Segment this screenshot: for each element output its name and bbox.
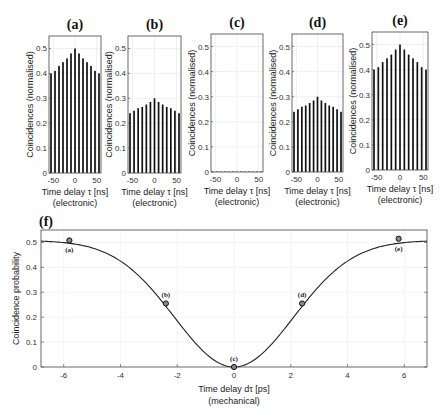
y-tick-label: 0.2 — [279, 118, 291, 127]
x-tick-label: 0 — [73, 176, 78, 185]
y-tick-label: 0.4 — [115, 69, 127, 78]
bar — [90, 66, 92, 173]
y-tick-label: 0.5 — [115, 44, 127, 53]
x-axis-sublabel: (electronic) — [378, 195, 423, 205]
bar — [54, 71, 56, 173]
x-axis-sublabel: (electronic) — [295, 197, 340, 207]
bar — [297, 109, 299, 172]
x-axis-sublabel: (mechanical) — [208, 396, 260, 406]
bar — [336, 109, 338, 172]
bar — [332, 107, 334, 172]
bar — [425, 70, 427, 170]
y-tick-label: 0.1 — [36, 144, 48, 153]
x-tick-label: 6 — [402, 371, 407, 380]
x-tick-label: -4 — [117, 371, 125, 380]
bar — [313, 100, 315, 172]
x-axis-label: Time delay τ [ns] — [367, 184, 434, 194]
x-tick-label: 0 — [232, 371, 237, 380]
panel-b: 00.10.20.30.40.5-50050(b)Time delay τ [n… — [104, 17, 188, 208]
bar — [317, 97, 319, 172]
x-tick-label: -2 — [174, 371, 182, 380]
bar — [340, 112, 342, 172]
y-tick-label: 0.3 — [36, 94, 48, 103]
y-axis-label: Coincidence probability — [11, 251, 21, 345]
y-tick-label: 0.3 — [198, 93, 210, 102]
bar — [94, 71, 96, 173]
y-tick-label: 0 — [33, 363, 38, 372]
x-axis-label: Time delay τ [ns] — [204, 186, 271, 196]
bar — [137, 108, 139, 173]
bar — [178, 113, 180, 173]
bar — [309, 103, 311, 172]
marker-point — [67, 238, 72, 243]
bar — [158, 102, 160, 173]
x-axis-label: Time delay dτ [ps] — [198, 384, 270, 394]
y-tick-label: 0.3 — [26, 288, 38, 297]
y-tick-label: 0.5 — [279, 43, 291, 52]
x-tick-label: -50 — [210, 175, 222, 184]
bar — [174, 111, 176, 173]
marker-label: (b) — [162, 291, 171, 299]
y-tick-label: 0.5 — [359, 41, 371, 50]
bar — [62, 62, 64, 173]
x-tick-label: 0 — [152, 176, 157, 185]
y-tick-label: 0.4 — [198, 68, 210, 77]
bar — [78, 53, 80, 173]
bar — [162, 105, 164, 174]
marker-point — [396, 236, 401, 241]
bar — [390, 55, 392, 170]
x-axis-label: Time delay τ [ns] — [284, 186, 351, 196]
bar — [416, 62, 418, 170]
y-axis-label: Coincidences (normalised) — [25, 51, 35, 158]
bar — [421, 67, 423, 170]
bar — [70, 53, 72, 173]
y-tick-label: 0.2 — [359, 116, 371, 125]
y-tick-label: 0.4 — [36, 69, 48, 78]
x-tick-label: -50 — [127, 176, 139, 185]
marker-label: (d) — [298, 291, 307, 299]
bar — [377, 67, 379, 170]
panel-d: 00.10.20.30.40.5-50050(d)Time delay τ [n… — [268, 15, 351, 207]
y-tick-label: 0.2 — [26, 313, 38, 322]
x-tick-label: 50 — [172, 176, 181, 185]
y-axis-label: Coincidences (normalised) — [187, 50, 197, 157]
y-tick-label: 0.2 — [115, 119, 127, 128]
bar — [408, 55, 410, 170]
y-tick-label: 0.4 — [279, 68, 291, 77]
bar — [82, 58, 84, 173]
y-tick-label: 0.3 — [115, 94, 127, 103]
x-axis-sublabel: (electronic) — [132, 198, 177, 208]
bar — [305, 106, 307, 172]
bar — [321, 100, 323, 172]
panel-f: 00.10.20.30.40.5-6-4-20246(a)(b)(c)(d)(e… — [11, 214, 427, 406]
y-axis-label: Coincidences (normalised) — [268, 50, 278, 157]
bar — [324, 103, 326, 172]
bar — [412, 58, 414, 170]
bar — [386, 58, 388, 170]
x-tick-label: 0 — [235, 175, 240, 184]
y-tick-label: 0.4 — [26, 263, 38, 272]
x-tick-label: -6 — [60, 371, 68, 380]
panel-tag: (d) — [309, 15, 326, 31]
bar — [328, 106, 330, 172]
x-tick-label: 0 — [315, 175, 320, 184]
y-tick-label: 0.5 — [36, 44, 48, 53]
bar — [382, 62, 384, 170]
bar — [154, 98, 156, 173]
x-tick-label: 2 — [289, 371, 294, 380]
x-axis-label: Time delay τ [ns] — [121, 187, 188, 197]
x-tick-label: -50 — [290, 175, 302, 184]
x-tick-label: 0 — [398, 173, 403, 182]
bar — [293, 112, 295, 172]
panel-tag: (e) — [392, 13, 408, 29]
panel-tag: (b) — [146, 17, 163, 33]
x-tick-label: 50 — [92, 176, 101, 185]
marker-label: (a) — [65, 246, 74, 254]
panel-tag: (f) — [39, 214, 53, 230]
bar — [395, 50, 397, 170]
marker-label: (e) — [395, 245, 403, 253]
bar — [129, 113, 131, 173]
y-tick-label: 0.3 — [359, 91, 371, 100]
panel-a: 00.10.20.30.40.5-50050(a)Time delay τ [n… — [25, 17, 108, 208]
marker-point — [231, 364, 236, 369]
